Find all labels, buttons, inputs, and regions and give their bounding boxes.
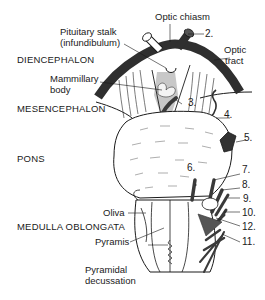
nerve-3-label: 3. — [188, 98, 196, 108]
nerve-7-label: 7. — [242, 165, 250, 175]
pyramidal-decussation-label: Pyramidal — [85, 265, 127, 275]
nerve-2-label: 2. — [205, 29, 213, 39]
optic-chiasm-label: Optic chiasm — [155, 12, 210, 22]
diencephalon-label: DIENCEPHALON — [17, 55, 94, 65]
nerve-11-label: 11. — [242, 237, 255, 247]
nerve-6-label: 6. — [187, 163, 195, 173]
pons-label: PONS — [17, 154, 45, 164]
nerve-9-label: 9. — [243, 194, 251, 204]
nerve-4-label: 4. — [224, 110, 232, 120]
mammillary-body-label-2: body — [50, 85, 71, 95]
mesencephalon-label: MESENCEPHALON — [17, 104, 106, 114]
nerve-5-label: 5. — [244, 133, 252, 143]
medulla-oblongata-label: MEDULLA OBLONGATA — [17, 222, 125, 232]
pituitary-stalk-label: Pituitary stalk — [60, 27, 117, 37]
pyramidal-decussation-label-2: decussation — [85, 276, 136, 286]
nerve-10-label: 10. — [242, 208, 256, 218]
nerve-12-label: 12. — [242, 222, 256, 232]
optic-tract-label: Optic — [224, 45, 246, 55]
nerve-8-label: 8. — [242, 180, 250, 190]
optic-tract-label-2: tract — [225, 56, 243, 66]
oliva-label: Oliva — [103, 208, 125, 218]
brainstem-diagram: Optic chiasm Pituitary stalk (infundibul… — [0, 0, 265, 300]
pyramis-label: Pyramis — [95, 237, 129, 247]
mammillary-body-label: Mammillary — [50, 74, 99, 84]
infundibulum-label: (infundibulum) — [60, 38, 120, 48]
